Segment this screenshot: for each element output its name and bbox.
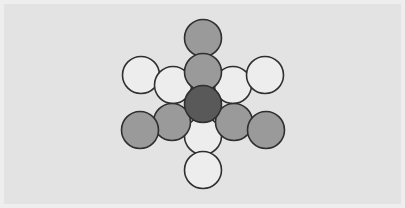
lattice-circle-lower-left-outer xyxy=(122,112,159,149)
lattice-circle-top-outer xyxy=(185,20,222,57)
lattice-circle-lower-right-outer xyxy=(248,112,285,149)
lattice-circle-upper-right-outer xyxy=(247,57,284,94)
circle-lattice-figure xyxy=(0,0,405,208)
lattice-diagram xyxy=(0,0,405,208)
lattice-circle-bottom-outer xyxy=(185,152,222,189)
lattice-circle-center xyxy=(185,86,222,123)
